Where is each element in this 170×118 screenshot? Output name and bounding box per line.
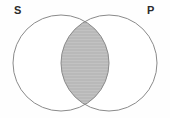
subject-circle-label: S	[14, 5, 21, 16]
venn-diagram-canvas	[0, 0, 170, 118]
venn-diagram: S P	[0, 0, 170, 118]
predicate-circle-label: P	[147, 5, 154, 16]
